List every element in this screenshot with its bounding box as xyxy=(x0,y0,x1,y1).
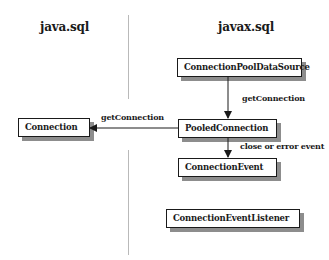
edge-label-cpds-to-pooled: getConnection xyxy=(242,93,305,103)
edge-arrows xyxy=(0,0,329,260)
edge-label-pooled-to-connection: getConnection xyxy=(101,112,164,122)
edge-label-pooled-to-event: close or error event xyxy=(240,141,324,151)
